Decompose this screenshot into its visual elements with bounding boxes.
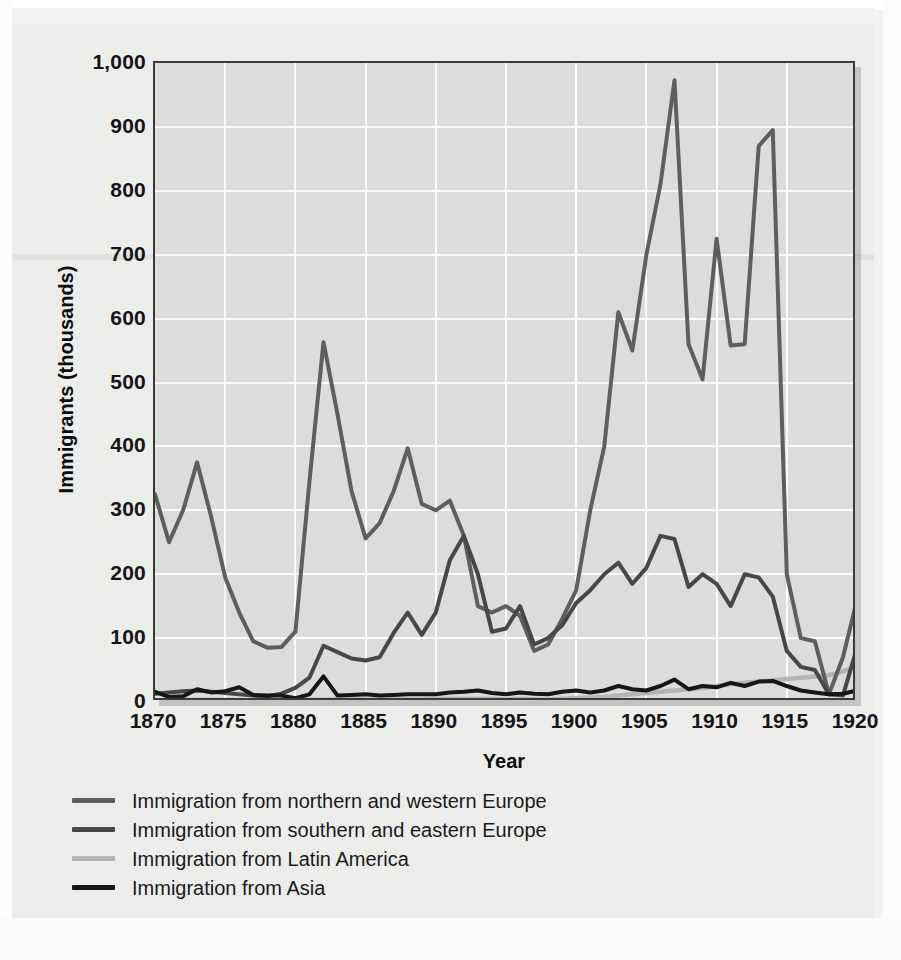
y-axis-tick-label: 400 (26, 434, 146, 455)
x-axis-tick-label: 1920 (810, 710, 900, 731)
series-line (155, 676, 853, 698)
plot-area (153, 61, 855, 700)
legend-item[interactable]: Immigration from southern and eastern Eu… (72, 815, 832, 844)
y-axis-tick-label: 700 (26, 243, 146, 264)
plot-inner (155, 63, 853, 698)
y-axis-tick-label: 100 (26, 626, 146, 647)
page-background: Immigrants (thousands) 1,000900800700600… (0, 0, 901, 960)
y-axis-tick-label: 800 (26, 179, 146, 200)
x-axis-title: Year (153, 750, 855, 773)
legend-label: Immigration from northern and western Eu… (132, 791, 547, 811)
y-axis-tick-label: 200 (26, 562, 146, 583)
legend-swatch-icon (72, 827, 115, 832)
x-axis-tick-labels: 1870187518801885189018951900190519101915… (153, 710, 855, 738)
legend-swatch-icon (72, 856, 115, 861)
series-line (155, 80, 853, 694)
legend-label: Immigration from Asia (132, 878, 325, 898)
legend-swatch-icon (72, 798, 115, 803)
chart-legend: Immigration from northern and western Eu… (72, 786, 832, 902)
paper-margin-bottom (0, 918, 901, 960)
y-axis-tick-label: 300 (26, 498, 146, 519)
y-axis-tick-label: 1,000 (26, 51, 146, 72)
chart-figure: Immigrants (thousands) 1,000900800700600… (12, 8, 874, 918)
scan-artifact-top (12, 8, 874, 24)
y-axis-tick-label: 900 (26, 115, 146, 136)
legend-swatch-icon (72, 885, 115, 890)
legend-label: Immigration from southern and eastern Eu… (132, 820, 547, 840)
series-line (155, 536, 853, 696)
y-axis-tick-label: 0 (26, 690, 146, 711)
legend-item[interactable]: Immigration from northern and western Eu… (72, 786, 832, 815)
legend-item[interactable]: Immigration from Asia (72, 873, 832, 902)
y-axis-tick-label: 600 (26, 307, 146, 328)
paper-margin-left (0, 0, 12, 960)
chart-series-layer (155, 63, 853, 698)
legend-label: Immigration from Latin America (132, 849, 409, 869)
legend-item[interactable]: Immigration from Latin America (72, 844, 832, 873)
y-axis-tick-label: 500 (26, 371, 146, 392)
paper-margin-right (883, 0, 901, 960)
y-axis-tick-labels: 1,0009008007006005004003002001000 (20, 61, 146, 700)
